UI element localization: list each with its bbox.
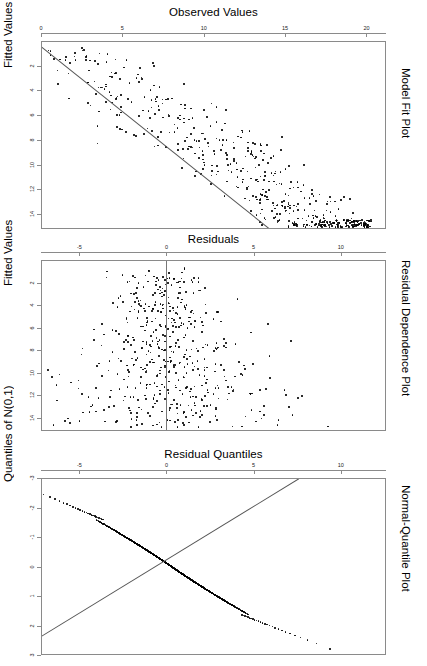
data-point (192, 117, 194, 119)
data-point (180, 404, 182, 406)
data-point (205, 312, 207, 314)
data-point (69, 505, 71, 507)
data-point (268, 189, 270, 191)
data-point (264, 623, 266, 625)
data-point (288, 220, 290, 222)
data-point (117, 306, 119, 308)
data-point (156, 96, 158, 98)
data-point (180, 325, 182, 327)
data-point (118, 358, 120, 360)
data-point (233, 158, 235, 160)
data-point (194, 326, 196, 328)
data-point (157, 136, 159, 138)
data-point (303, 184, 305, 186)
data-point (199, 290, 201, 292)
data-point (115, 98, 117, 100)
data-point (81, 393, 83, 395)
data-point (153, 331, 155, 333)
x-axis-tick (285, 33, 286, 37)
data-point (68, 73, 70, 75)
data-point (140, 305, 142, 307)
data-point (214, 371, 216, 373)
data-point (155, 281, 157, 283)
data-point (162, 276, 164, 278)
data-point (183, 356, 185, 358)
data-point (194, 402, 196, 404)
data-point (136, 412, 138, 414)
data-point (110, 95, 112, 97)
data-point (154, 403, 156, 405)
data-point (216, 121, 218, 123)
x-axis-tick-label: 0 (39, 25, 42, 31)
panel-3-scatter-area (42, 479, 385, 654)
data-point (56, 400, 58, 402)
data-point (308, 215, 310, 217)
data-point (303, 224, 305, 226)
data-point (173, 310, 175, 312)
data-point (110, 390, 112, 392)
data-point (153, 65, 155, 67)
data-point (201, 321, 203, 323)
data-point (142, 110, 144, 112)
data-point (117, 373, 119, 375)
data-point (231, 386, 233, 388)
data-point (157, 341, 159, 343)
data-point (82, 412, 84, 414)
data-point (243, 365, 245, 367)
data-point (184, 354, 186, 356)
data-point (190, 133, 192, 135)
x-axis-tick (79, 252, 80, 256)
data-point (138, 81, 140, 83)
data-point (175, 345, 177, 347)
data-point (217, 311, 219, 313)
data-point (131, 101, 133, 103)
data-point (262, 189, 264, 191)
data-point (156, 277, 158, 279)
data-point (134, 351, 136, 353)
data-point (86, 55, 88, 57)
data-point (132, 337, 134, 339)
data-point (263, 153, 265, 155)
data-point (220, 364, 222, 366)
data-point (64, 420, 66, 422)
x-axis-tick-label: 10 (201, 25, 207, 31)
data-point (136, 416, 138, 418)
data-point (150, 352, 152, 354)
data-point (242, 374, 244, 376)
data-point (131, 306, 133, 308)
data-point (47, 369, 49, 371)
data-point (95, 93, 97, 95)
data-point (159, 286, 161, 288)
data-point (96, 365, 98, 367)
y-axis-tick-label: 3 (29, 653, 35, 656)
data-point (195, 396, 197, 398)
data-point (247, 147, 249, 149)
data-point (266, 196, 268, 198)
data-point (192, 362, 194, 364)
data-point (174, 131, 176, 133)
data-point (237, 298, 239, 300)
data-point (236, 162, 238, 164)
data-point (144, 330, 146, 332)
y-axis-tick-label: 4 (29, 303, 35, 306)
data-point (101, 375, 103, 377)
data-point (203, 133, 205, 135)
panel-2-right-title: Residual Dependence Plot (400, 260, 412, 430)
data-point (144, 395, 146, 397)
data-point (93, 339, 95, 341)
data-point (370, 221, 372, 223)
data-point (175, 312, 177, 314)
x-axis-tick (166, 252, 167, 256)
data-point (177, 419, 179, 421)
data-point (138, 282, 140, 284)
data-point (129, 281, 131, 283)
data-point (208, 146, 210, 148)
data-point (260, 213, 262, 215)
data-point (331, 225, 333, 227)
data-point (67, 418, 69, 420)
data-point (146, 354, 148, 356)
data-point (128, 407, 130, 409)
data-point (303, 164, 305, 166)
data-point (206, 379, 208, 381)
data-point (343, 196, 345, 198)
